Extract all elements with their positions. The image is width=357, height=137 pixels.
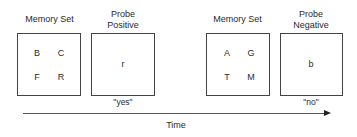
memory-set-2-title: Memory Set	[200, 14, 275, 25]
memory-letter: T	[224, 72, 230, 82]
probe-negative-box: b	[280, 33, 343, 96]
memory-letter: C	[58, 48, 65, 58]
memory-letter: M	[247, 72, 255, 82]
memory-letter: A	[224, 48, 230, 58]
probe-positive-title-line1: Probe	[90, 9, 156, 20]
time-axis-line	[23, 113, 325, 114]
memory-set-1-title: Memory Set	[12, 14, 87, 25]
memory-set-1-box: B C F R	[17, 33, 81, 96]
probe-positive-title-line2: Positive	[90, 20, 156, 31]
probe-positive-box: r	[91, 33, 155, 96]
probe-negative-title-line2: Negative	[278, 20, 344, 31]
memory-letter: R	[58, 72, 65, 82]
memory-set-2-box: A G T M	[206, 33, 270, 96]
probe-negative-title: Probe Negative	[278, 9, 344, 31]
probe-positive-title: Probe Positive	[90, 9, 156, 31]
probe-letter: r	[122, 59, 125, 69]
memory-letter: B	[34, 48, 40, 58]
memory-letter: G	[247, 48, 254, 58]
memory-letter: F	[34, 72, 40, 82]
probe-negative-title-line1: Probe	[278, 9, 344, 20]
arrow-right-icon	[324, 110, 331, 116]
response-yes: "yes"	[113, 97, 132, 107]
time-axis-label: Time	[166, 120, 186, 130]
probe-letter: b	[308, 59, 313, 69]
response-no: "no"	[303, 97, 319, 107]
